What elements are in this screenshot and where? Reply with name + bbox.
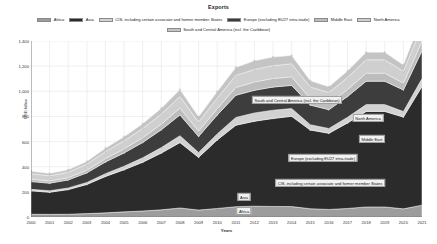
- legend-label: Asia: [86, 16, 94, 24]
- annotation-europe: Europe (excluding EU27 intra-trade): [288, 154, 357, 162]
- x-axis-tick-label: 2010: [213, 220, 222, 225]
- legend-swatch-icon: [357, 18, 371, 23]
- x-axis-tick-label: 2019: [380, 220, 389, 225]
- legend-label: Europe (excluding EU27 intra-trade): [244, 16, 310, 24]
- x-axis-tick-label: 2011: [231, 220, 240, 225]
- legend-item[interactable]: Asia: [69, 16, 93, 24]
- y-axis-tick-label: 1,000: [19, 89, 29, 94]
- x-axis-tick-label: 2017: [343, 220, 352, 225]
- legend-item[interactable]: CIS, including certain associate and for…: [99, 16, 222, 24]
- legend-item[interactable]: South and Central America (incl. the Car…: [167, 26, 270, 34]
- legend-row-2: South and Central America (incl. the Car…: [0, 26, 437, 34]
- x-axis-tick-label: 2007: [157, 220, 166, 225]
- legend-label: North America: [374, 16, 400, 24]
- y-axis-tick-label: 1,200: [19, 64, 29, 69]
- x-axis-tick-label: 2001: [45, 220, 54, 225]
- legend-label: South and Central America (incl. the Car…: [183, 26, 270, 34]
- x-axis-tick-label: 2015: [306, 220, 315, 225]
- legend-swatch-icon: [227, 18, 241, 23]
- x-axis-tick-label: 2009: [194, 220, 203, 225]
- annotation-asia: Asia: [238, 193, 251, 201]
- x-axis-label: Years: [221, 228, 232, 233]
- legend-label: CIS, including certain associate and for…: [115, 16, 222, 24]
- x-axis-tick-label: 2012: [250, 220, 259, 225]
- annotation-south-central-america: South and Central America (incl. the Car…: [252, 96, 342, 104]
- legend-item[interactable]: Middle East: [314, 16, 352, 24]
- y-axis-tick-label: 600: [22, 139, 29, 144]
- x-axis-tick-label: 2020: [399, 220, 408, 225]
- y-axis-tick-label: 200: [22, 189, 29, 194]
- x-axis-tick-label: 2005: [120, 220, 129, 225]
- legend-item[interactable]: Africa: [37, 16, 64, 24]
- y-axis-tick-label: 400: [22, 164, 29, 169]
- legend-label: Africa: [54, 16, 64, 24]
- y-axis-tick-label: 800: [22, 114, 29, 119]
- annotation-middle-east: Middle East: [359, 135, 385, 143]
- x-axis-tick-label: 2021: [417, 220, 426, 225]
- annotation-africa: Africa: [236, 207, 251, 215]
- legend-swatch-icon: [37, 18, 51, 23]
- legend-swatch-icon: [167, 28, 181, 33]
- x-axis-tick-label: 2004: [101, 220, 110, 225]
- legend-row-1: AfricaAsiaCIS, including certain associa…: [0, 16, 437, 24]
- x-axis-tick-label: 2018: [362, 220, 371, 225]
- legend-item[interactable]: Europe (excluding EU27 intra-trade): [227, 16, 309, 24]
- y-axis-tick-label: 0: [27, 215, 29, 220]
- legend-swatch-icon: [69, 18, 83, 23]
- y-axis-tick-label: 1,400: [19, 39, 29, 44]
- x-axis-tick-label: 2006: [138, 220, 147, 225]
- legend-item[interactable]: North America: [357, 16, 399, 24]
- plot-area: USD billion 02004006008001,0001,2001,400…: [31, 41, 422, 217]
- x-axis-tick-label: 2014: [287, 220, 296, 225]
- chart-legend: AfricaAsiaCIS, including certain associa…: [0, 16, 437, 34]
- x-axis-tick-label: 2002: [64, 220, 73, 225]
- x-axis-tick-label: 2016: [324, 220, 333, 225]
- chart-title: Exports: [0, 4, 437, 10]
- annotation-north-america: North America: [353, 114, 384, 122]
- x-axis-tick-label: 2008: [175, 220, 184, 225]
- chart-screenshot: Exports AfricaAsiaCIS, including certain…: [0, 0, 437, 244]
- x-axis-tick-label: 2013: [268, 220, 277, 225]
- legend-label: Middle East: [331, 16, 352, 24]
- legend-swatch-icon: [314, 18, 328, 23]
- stacked-area-plot: [31, 41, 422, 217]
- x-axis-tick-label: 2003: [82, 220, 91, 225]
- x-axis-tick-label: 2000: [26, 220, 35, 225]
- annotation-cis: CIS, including certain associate and for…: [275, 179, 385, 187]
- legend-swatch-icon: [99, 18, 113, 23]
